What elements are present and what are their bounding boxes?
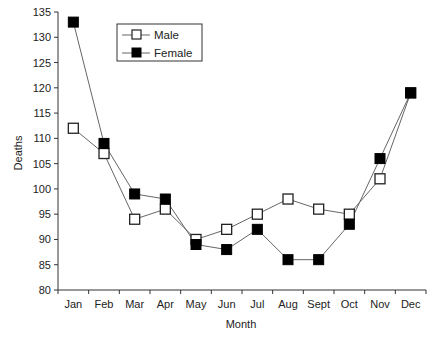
filled-square-marker-icon <box>68 17 78 27</box>
open-square-marker-icon <box>68 123 78 133</box>
y-tick-label: 100 <box>33 183 51 195</box>
open-square-marker-icon <box>99 149 109 159</box>
x-tick-label: Feb <box>95 298 114 310</box>
y-tick-label: 80 <box>39 284 51 296</box>
line-chart: 80859095100105110115120125130135 JanFebM… <box>0 0 437 337</box>
filled-square-marker-icon <box>314 255 324 265</box>
x-tick-label: Aug <box>278 298 298 310</box>
y-tick-label: 110 <box>33 132 51 144</box>
open-square-marker-icon <box>375 174 385 184</box>
x-axis: JanFebMarAprMayJunJulAugSeptOctNovDec <box>58 290 426 310</box>
filled-square-marker-icon <box>99 138 109 148</box>
filled-square-marker-icon <box>222 245 232 255</box>
open-square-marker-icon <box>314 204 324 214</box>
y-tick-label: 115 <box>33 107 51 119</box>
x-tick-label: Jun <box>218 298 236 310</box>
series-line-male <box>73 93 410 240</box>
x-axis-title: Month <box>226 318 257 330</box>
y-tick-label: 85 <box>39 259 51 271</box>
x-tick-label: Mar <box>125 298 144 310</box>
filled-square-marker-icon <box>375 154 385 164</box>
legend: Male Female <box>117 24 202 61</box>
open-square-marker-icon <box>130 214 140 224</box>
filled-square-marker-icon <box>160 194 170 204</box>
x-tick-label: Jan <box>64 298 82 310</box>
open-square-marker-icon <box>283 194 293 204</box>
x-tick-label: Apr <box>157 298 174 310</box>
y-tick-label: 125 <box>33 57 51 69</box>
y-axis: 80859095100105110115120125130135 <box>33 6 58 296</box>
filled-square-marker-icon <box>130 189 140 199</box>
filled-square-marker-icon <box>132 48 141 57</box>
x-tick-label: Oct <box>341 298 358 310</box>
y-tick-label: 105 <box>33 158 51 170</box>
legend-label-female: Female <box>154 47 192 59</box>
y-tick-label: 90 <box>39 233 51 245</box>
x-tick-label: May <box>186 298 207 310</box>
x-tick-label: Dec <box>401 298 421 310</box>
open-square-marker-icon <box>252 209 262 219</box>
filled-square-marker-icon <box>191 240 201 250</box>
y-axis-title: Deaths <box>12 135 24 170</box>
open-square-marker-icon <box>344 209 354 219</box>
filled-square-marker-icon <box>252 224 262 234</box>
x-tick-label: Nov <box>370 298 390 310</box>
x-tick-label: Sept <box>307 298 330 310</box>
open-square-marker-icon <box>160 204 170 214</box>
open-square-marker-icon <box>222 224 232 234</box>
open-square-marker-icon <box>132 30 141 39</box>
legend-label-male: Male <box>154 29 179 41</box>
filled-square-marker-icon <box>344 219 354 229</box>
y-tick-label: 130 <box>33 31 51 43</box>
y-tick-label: 135 <box>33 6 51 18</box>
legend-item-female: Female <box>122 47 192 59</box>
y-tick-label: 95 <box>39 208 51 220</box>
filled-square-marker-icon <box>406 88 416 98</box>
x-tick-label: Jul <box>250 298 264 310</box>
filled-square-marker-icon <box>283 255 293 265</box>
y-tick-label: 120 <box>33 82 51 94</box>
